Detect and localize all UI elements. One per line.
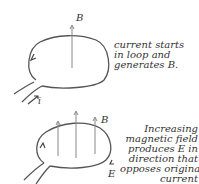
caption-1: current starts in loop and generates B.: [114, 40, 184, 70]
emf-arrow: [110, 160, 114, 164]
current-label: i: [38, 96, 41, 106]
current-arrow-1: [31, 54, 36, 60]
current-in-arrow: [28, 96, 38, 104]
field-arrow-1: [70, 25, 74, 68]
caption-2: Increasing magnetic field produces E in …: [120, 124, 198, 184]
field-arrows-2: [56, 111, 97, 158]
field-label-1: B: [76, 12, 83, 23]
emf-label: E: [108, 168, 115, 179]
loop-1: [14, 36, 109, 102]
current-arrow-2: [40, 143, 45, 148]
loop-2: [24, 123, 111, 184]
field-label-2: B: [101, 114, 108, 125]
